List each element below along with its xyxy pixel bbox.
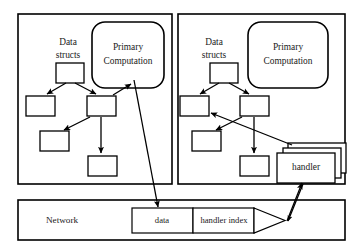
architecture-diagram: Data structs Primary Computation Data st… (0, 0, 362, 250)
right-data-structs-label-line1: Data (205, 37, 224, 47)
left-primary-computation-box (92, 22, 164, 88)
left-ds-child-c-box (40, 131, 69, 151)
left-ds-child-b-box (87, 96, 116, 116)
right-ds-child-a-box (180, 96, 209, 116)
right-ds-child-c-box (192, 131, 221, 151)
right-ds-child-d-box (240, 156, 269, 176)
network-bar: Network data handler index (18, 200, 345, 240)
left-ds-child-d-box (88, 156, 117, 176)
handler-label: handler (292, 162, 321, 172)
left-primary-computation-line1: Primary (113, 42, 144, 52)
left-primary-computation-line2: Computation (104, 56, 153, 66)
packet-data-field-label: data (155, 215, 169, 225)
left-ds-root-box (56, 63, 84, 83)
right-primary-computation-box (248, 22, 328, 88)
diagram-canvas: Data structs Primary Computation Data st… (0, 0, 362, 250)
left-data-structs-label-line2: structs (56, 50, 81, 60)
right-primary-computation-line2: Computation (264, 56, 313, 66)
right-ds-child-b-box (240, 96, 269, 116)
right-data-structs-label-line2: structs (202, 50, 227, 60)
right-primary-computation-line1: Primary (273, 42, 304, 52)
right-node-panel: Data structs Primary Computation handler (178, 14, 346, 184)
network-label: Network (46, 215, 79, 225)
packet-handler-index-field-label: handler index (200, 215, 248, 225)
left-ds-child-a-box (26, 96, 55, 116)
left-data-structs-label-line1: Data (59, 37, 78, 47)
right-ds-root-box (210, 63, 238, 83)
